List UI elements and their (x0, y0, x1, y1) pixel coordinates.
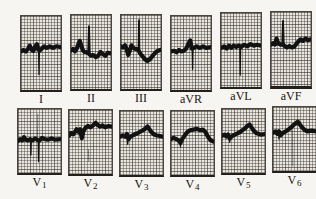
ecg-figure: IIIIIIaVRaVLaVF V1V2V3V4V5V6 (0, 0, 316, 199)
ecg-grid-paper-II (70, 14, 112, 91)
ecg-panel-III: III (120, 14, 162, 105)
lead-label-subscript: 6 (297, 178, 302, 188)
ecg-panel-II: II (70, 14, 112, 105)
ecg-panel-V4: V4 (170, 110, 215, 190)
lead-label-aVR: aVR (180, 93, 202, 105)
ecg-panel-I: I (20, 15, 62, 106)
ecg-grid-paper-aVL (220, 12, 262, 89)
lead-label-text: I (39, 92, 43, 106)
ecg-grid-paper-I (20, 15, 62, 92)
ecg-trace-V1 (18, 109, 61, 173)
ecg-panel-V2: V2 (68, 109, 113, 189)
lead-label-I: I (39, 93, 43, 105)
lead-label-V5: V5 (236, 176, 250, 188)
lead-label-text: V (185, 177, 194, 191)
ecg-panel-V6: V6 (272, 106, 316, 186)
lead-label-text: aVL (230, 89, 251, 103)
ecg-grid-paper-V5 (221, 108, 266, 175)
lead-label-text: III (135, 91, 147, 105)
ecg-trace-V4 (171, 111, 214, 175)
lead-label-text: V (83, 176, 92, 190)
lead-label-text: V (32, 175, 41, 189)
lead-label-subscript: 1 (42, 180, 47, 190)
ecg-panel-V1: V1 (17, 108, 62, 188)
lead-label-V4: V4 (185, 178, 199, 190)
lead-label-text: V (236, 175, 245, 189)
ecg-panel-aVR: aVR (170, 15, 212, 106)
ecg-grid-paper-V2 (68, 109, 113, 176)
ecg-grid-paper-III (120, 14, 162, 91)
ecg-grid-paper-V3 (119, 110, 164, 177)
ecg-grid-paper-V6 (272, 106, 316, 173)
lead-label-V6: V6 (287, 174, 301, 186)
ecg-trace-V5 (222, 109, 265, 173)
lead-label-III: III (135, 92, 147, 104)
lead-label-II: II (87, 92, 95, 104)
ecg-trace-II (71, 15, 111, 89)
ecg-trace-I (21, 16, 61, 90)
ecg-row-precordial-leads: V1V2V3V4V5V6 (17, 108, 316, 188)
ecg-panel-aVF: aVF (270, 11, 312, 102)
lead-label-subscript: 5 (246, 180, 251, 190)
lead-label-subscript: 2 (93, 181, 98, 191)
lead-label-text: II (87, 91, 95, 105)
lead-label-V2: V2 (83, 177, 97, 189)
lead-label-text: aVR (180, 92, 202, 106)
ecg-grid-paper-V1 (17, 108, 62, 175)
ecg-trace-V3 (120, 111, 163, 175)
ecg-row-limb-leads: IIIIIIaVRaVLaVF (20, 12, 312, 103)
ecg-trace-V6 (273, 107, 316, 171)
lead-label-aVF: aVF (281, 90, 302, 102)
lead-label-subscript: 3 (144, 182, 149, 192)
ecg-trace-aVR (171, 16, 211, 90)
lead-label-text: V (287, 173, 296, 187)
ecg-panel-aVL: aVL (220, 12, 262, 103)
ecg-trace-aVL (221, 13, 261, 87)
lead-label-subscript: 4 (195, 182, 200, 192)
ecg-grid-paper-aVR (170, 15, 212, 92)
ecg-trace-aVF (271, 12, 311, 86)
ecg-panel-V3: V3 (119, 110, 164, 190)
ecg-trace-V2 (69, 110, 112, 174)
ecg-panel-V5: V5 (221, 108, 266, 188)
ecg-grid-paper-aVF (270, 11, 312, 89)
ecg-grid-paper-V4 (170, 110, 215, 177)
lead-label-V3: V3 (134, 178, 148, 190)
lead-label-aVL: aVL (230, 90, 251, 102)
ecg-trace-III (121, 15, 161, 89)
lead-label-V1: V1 (32, 176, 46, 188)
lead-label-text: aVF (281, 89, 302, 103)
lead-label-text: V (134, 177, 143, 191)
